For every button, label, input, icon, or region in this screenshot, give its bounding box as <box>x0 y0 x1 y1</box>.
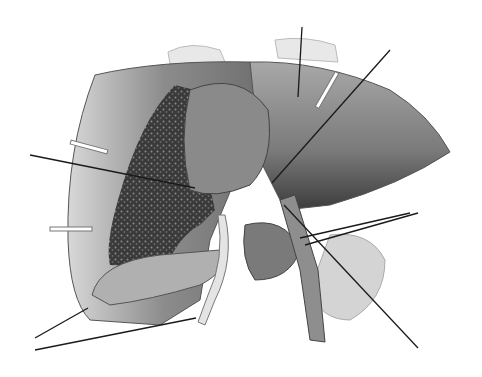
diagram-stage <box>0 0 482 377</box>
leader-line-4 <box>35 308 88 338</box>
label-box-2[interactable] <box>50 227 92 231</box>
liver-left-lobe <box>250 62 450 210</box>
diaphragm-tuft-right <box>275 38 338 62</box>
liver-illustration <box>0 0 482 377</box>
diaphragm-tuft-left <box>168 45 225 64</box>
leader-line-5 <box>35 318 196 350</box>
leader-line-7 <box>300 213 410 238</box>
caudate-lobe <box>184 83 270 194</box>
